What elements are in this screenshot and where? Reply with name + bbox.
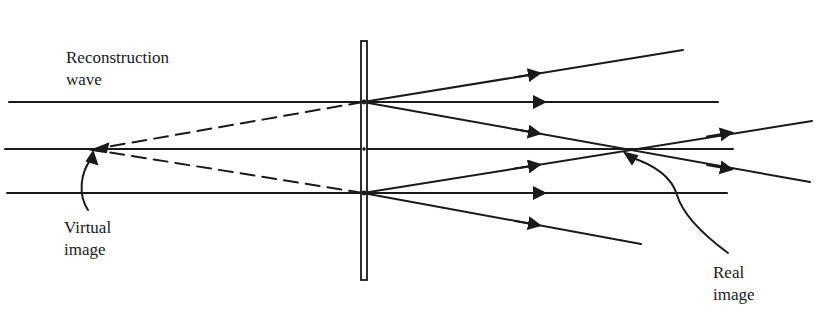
ray-intersection-dot — [362, 100, 367, 105]
real-image-pointer — [630, 157, 728, 253]
virtual-ray-bottom-dashed — [95, 150, 363, 193]
virtual-image-label: Virtual image — [64, 217, 111, 261]
pointer-arrowhead-icon — [87, 152, 97, 164]
arrow-icon — [515, 129, 535, 133]
real-image-label-line2: image — [713, 284, 755, 306]
virtual-image-label-line2: image — [64, 239, 111, 261]
pointer-arrowhead-icon — [625, 153, 637, 164]
reconstruction-wave-label-line1: Reconstruction — [66, 47, 169, 69]
arrow-icon — [515, 165, 535, 168]
reconstruction-wave-label-line2: wave — [66, 69, 169, 91]
real-image-label: Real image — [713, 262, 755, 306]
converging-ray-bottom — [363, 121, 812, 193]
arrow-icon — [515, 221, 535, 225]
real-image-label-line1: Real — [713, 262, 755, 284]
virtual-image-pointer — [82, 158, 92, 210]
diverging-ray-bottom — [363, 193, 641, 244]
virtual-ray-top-dashed — [95, 102, 363, 149]
converging-ray-top — [363, 102, 810, 182]
hologram-plate — [361, 41, 367, 280]
arrow-icon — [515, 74, 535, 77]
virtual-image-label-line1: Virtual — [64, 217, 111, 239]
ray-intersection-dot — [362, 147, 366, 151]
reconstruction-wave-label: Reconstruction wave — [66, 47, 169, 91]
ray-intersection-dot — [362, 191, 367, 196]
